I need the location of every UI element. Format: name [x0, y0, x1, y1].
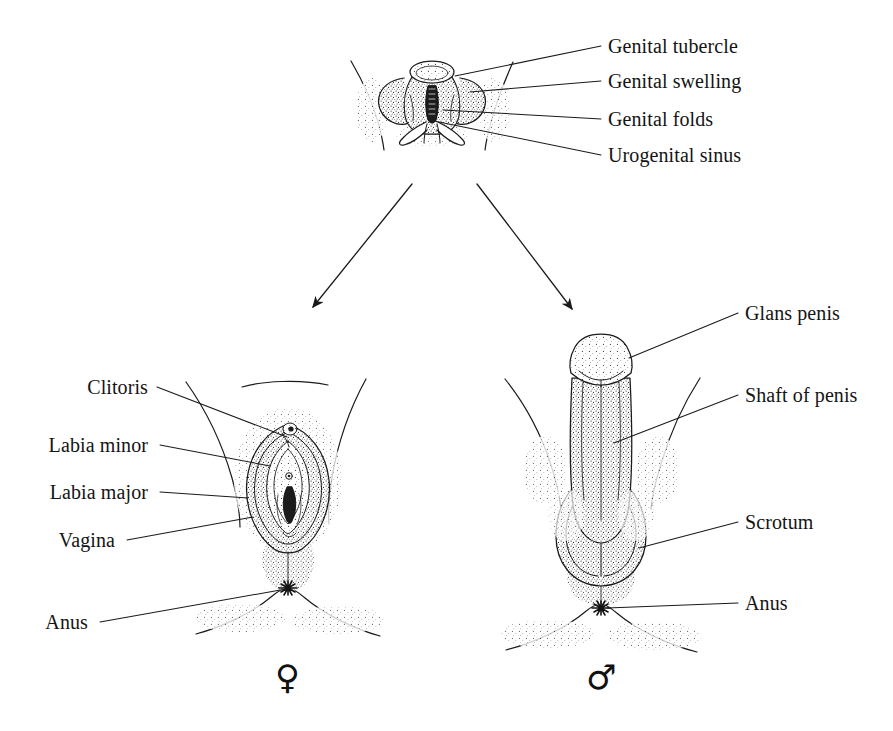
label-shaft-of-penis: Shaft of penis [745, 385, 858, 405]
branch-arrows [313, 184, 572, 309]
label-glans-penis: Glans penis [745, 303, 840, 323]
diagram-artwork [0, 0, 893, 731]
female-symbol: ♀ [275, 660, 300, 694]
label-anus-female: Anus [0, 612, 88, 632]
label-scrotum: Scrotum [745, 512, 813, 532]
label-genital-folds: Genital folds [608, 109, 713, 129]
diagram-canvas: Genital tubercle Genital swelling Genita… [0, 0, 893, 731]
label-genital-tubercle: Genital tubercle [608, 36, 738, 56]
label-labia-minor: Labia minor [0, 435, 148, 455]
label-clitoris: Clitoris [0, 377, 148, 397]
label-genital-swelling: Genital swelling [608, 71, 741, 91]
indifferent-stage-drawing [351, 61, 513, 150]
label-urogenital-sinus: Urogenital sinus [608, 145, 741, 165]
label-vagina: Vagina [0, 530, 115, 550]
male-symbol: ♂ [586, 660, 616, 694]
female-stage-drawing [186, 379, 384, 636]
label-labia-major: Labia major [0, 482, 148, 502]
male-stage-drawing [500, 334, 702, 652]
label-anus-male: Anus [745, 593, 788, 613]
